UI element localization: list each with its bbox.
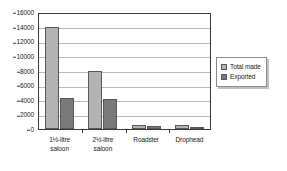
category-separator <box>126 129 127 133</box>
x-axis-tick-label-line: saloon <box>38 144 81 153</box>
y-axis-tick-label: 16000 <box>16 10 34 17</box>
bar-exported <box>103 99 117 129</box>
x-axis-tick-label: 2½-litresaloon <box>81 135 124 153</box>
bar-exported <box>60 98 74 129</box>
y-axis-tick-label: 10000 <box>16 54 34 61</box>
x-axis-tick-label-line: Roadster <box>125 135 168 144</box>
chart-legend: Total madeExported <box>216 57 267 87</box>
legend-item: Total made <box>221 62 261 72</box>
y-axis-tick-mark <box>13 42 16 43</box>
bar-exported <box>190 127 204 129</box>
y-axis-tick-label: 6000 <box>20 83 34 90</box>
y-axis-tick-mark <box>17 86 20 87</box>
bars-layer <box>39 14 210 129</box>
bar-total-made <box>45 27 59 129</box>
plot-area <box>38 13 211 130</box>
legend-label: Total made <box>230 64 261 71</box>
bar-group <box>126 14 169 129</box>
x-axis-tick-label: Drophead <box>168 135 211 144</box>
legend-swatch-icon <box>221 74 227 80</box>
bar-chart: 0200040006000800010000120001400016000 1½… <box>0 0 287 171</box>
y-axis-tick-label: 0 <box>30 127 34 134</box>
y-axis-tick-mark <box>27 130 30 131</box>
x-axis-tick-label-line: 2½-litre <box>81 135 124 144</box>
y-axis: 0200040006000800010000120001400016000 <box>0 13 34 130</box>
bar-group <box>82 14 125 129</box>
x-axis-tick-label: Roadster <box>125 135 168 144</box>
y-axis-tick-mark <box>13 28 16 29</box>
y-axis-tick-mark <box>17 115 20 116</box>
legend-swatch-icon <box>221 64 227 70</box>
y-axis-tick-label: 14000 <box>16 24 34 31</box>
bar-total-made <box>175 125 189 129</box>
bar-group <box>39 14 82 129</box>
y-axis-tick-mark <box>17 72 20 73</box>
x-axis: 1½-litresaloon2½-litresaloonRoadsterDrop… <box>38 135 211 165</box>
legend-label: Exported <box>230 74 255 81</box>
y-axis-tick-label: 8000 <box>20 68 34 75</box>
bar-total-made <box>132 125 146 129</box>
x-axis-tick-label-line: Drophead <box>168 135 211 144</box>
x-axis-tick-label: 1½-litresaloon <box>38 135 81 153</box>
bar-group <box>169 14 212 129</box>
bar-exported <box>147 126 161 129</box>
bar-total-made <box>88 71 102 129</box>
y-axis-tick-label: 4000 <box>20 98 34 105</box>
y-axis-tick-label: 2000 <box>20 112 34 119</box>
y-axis-tick-mark <box>13 57 16 58</box>
y-axis-tick-mark <box>17 101 20 102</box>
y-axis-tick-mark <box>13 13 16 14</box>
x-axis-tick-label-line: 1½-litre <box>38 135 81 144</box>
x-axis-tick-label-line: saloon <box>81 144 124 153</box>
category-separator <box>169 129 170 133</box>
legend-item: Exported <box>221 72 261 82</box>
y-axis-tick-label: 12000 <box>16 39 34 46</box>
category-separator <box>82 129 83 133</box>
